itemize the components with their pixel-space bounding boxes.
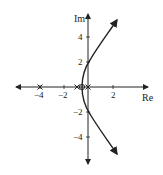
tick-label-y-neg2: −2	[73, 107, 83, 117]
y-axis-label: Im	[74, 13, 85, 24]
tick-label-y-2: 2	[78, 57, 83, 67]
tick-label-y-4: 4	[78, 32, 83, 42]
tick-label-x-2: 2	[111, 90, 116, 100]
tick-label-y-neg4: −4	[73, 132, 83, 142]
root-locus-plot: Im Re −4 −2 2 4 2 −2 −4	[0, 0, 163, 175]
tick-label-x-neg4: −4	[34, 90, 44, 100]
tick-label-x-neg2: −2	[58, 90, 68, 100]
x-axis-label: Re	[142, 92, 154, 103]
locus-branch-upper	[82, 20, 117, 87]
